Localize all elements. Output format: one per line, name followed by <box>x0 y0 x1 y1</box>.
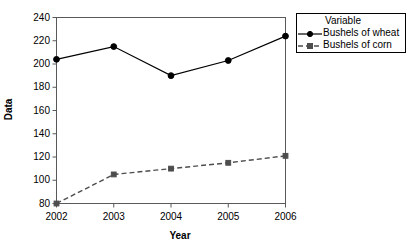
y-axis-title: Data <box>3 87 14 133</box>
x-axis-title: Year <box>140 230 220 241</box>
legend-item-bushels-of-corn: Bushels of corn <box>297 38 405 50</box>
legend-label-wheat: Bushels of wheat <box>323 27 399 38</box>
x-tick-label: 2005 <box>208 212 248 222</box>
legend-label-corn: Bushels of corn <box>323 39 392 50</box>
line-chart: 80100120140160180200220240 2002200320042… <box>0 0 410 251</box>
x-tick-label: 2004 <box>151 212 191 222</box>
x-tick-label: 2006 <box>266 212 306 222</box>
legend-key-wheat-icon <box>297 26 323 38</box>
legend: Variable Bushels of wheat Bushels of cor… <box>296 13 406 53</box>
legend-item-bushels-of-wheat: Bushels of wheat <box>297 26 405 38</box>
x-tick-label: 2003 <box>94 212 134 222</box>
legend-title: Variable <box>297 15 405 26</box>
legend-key-corn-icon <box>297 38 323 50</box>
x-tick-label: 2002 <box>37 212 77 222</box>
